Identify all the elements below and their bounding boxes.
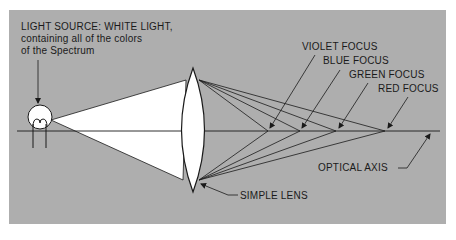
- simple-lens-label: SIMPLE LENS: [240, 190, 308, 202]
- light-cone: [51, 80, 186, 180]
- violet-focus-label: VIOLET FOCUS: [302, 41, 378, 53]
- light-source-label-line1: LIGHT SOURCE: WHITE LIGHT,: [21, 21, 173, 33]
- light-source-label-line2: containing all of the colors: [21, 33, 142, 45]
- light-bulb-icon: [28, 105, 52, 148]
- blue-focus-pointer: [302, 70, 340, 128]
- violet-focus-pointer: [270, 55, 315, 128]
- red-focus-label: RED FOCUS: [378, 83, 439, 95]
- refracted-rays-top: [199, 80, 385, 131]
- green-focus-pointer: [339, 83, 368, 128]
- red-focus-pointer: [388, 97, 408, 128]
- optical-axis-pointer: [398, 134, 430, 168]
- blue-focus-label: BLUE FOCUS: [323, 55, 389, 67]
- optical-axis-label: OPTICAL AXIS: [318, 162, 388, 174]
- light-source-label-line3: of the Spectrum: [21, 45, 95, 57]
- simple-lens-pointer: [201, 184, 238, 195]
- green-focus-label: GREEN FOCUS: [349, 69, 425, 81]
